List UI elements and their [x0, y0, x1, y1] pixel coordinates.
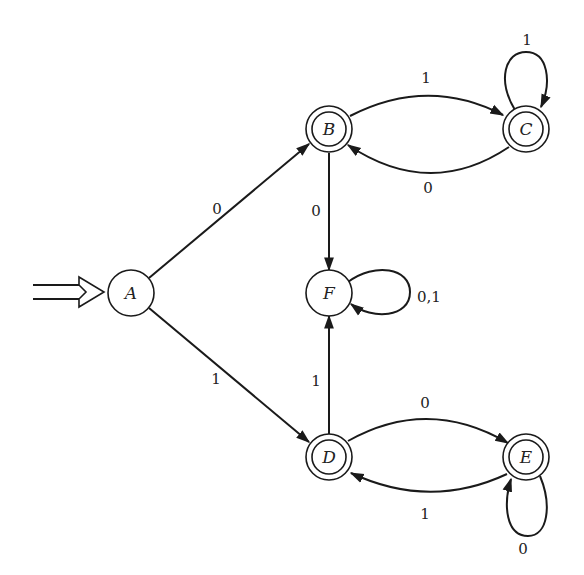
edge-label: 1: [211, 370, 221, 388]
state-F: F: [306, 270, 352, 316]
state-label: D: [321, 447, 336, 467]
state-label: C: [519, 119, 532, 139]
edge-label: 0: [518, 540, 528, 558]
dfa-diagram: 0 1 1 0 1 0 0,1 1 0 1 0 A: [0, 0, 584, 575]
state-label: E: [519, 447, 533, 467]
state-label: B: [322, 119, 336, 139]
edge-A-D: 1: [149, 308, 309, 442]
edge-D-F: 1: [311, 316, 329, 434]
state-D: D: [306, 434, 352, 480]
edge-B-F: 0: [311, 153, 329, 270]
state-C: C: [503, 106, 549, 152]
edge-label: 0: [423, 179, 433, 197]
edge-B-C: 1: [350, 69, 503, 116]
edge-E-E: 0: [507, 476, 547, 558]
edge-C-B: 0: [348, 145, 509, 197]
edge-label: 0: [311, 202, 321, 220]
edge-F-F: 0,1: [348, 270, 441, 314]
state-A: A: [108, 270, 154, 316]
edge-label: 0: [420, 394, 430, 412]
state-B: B: [306, 106, 352, 152]
edge-label: 0,1: [417, 288, 441, 306]
edge-label: 1: [421, 69, 431, 87]
edge-A-B: 0: [149, 144, 309, 278]
state-label: F: [322, 283, 336, 303]
edge-label: 1: [522, 31, 532, 49]
edge-D-E: 0: [348, 394, 508, 443]
edge-label: 0: [212, 200, 222, 218]
edge-label: 1: [311, 372, 321, 390]
edge-label: 1: [420, 505, 430, 523]
start-arrow-icon: [33, 277, 104, 307]
state-E: E: [503, 434, 549, 480]
state-label: A: [123, 283, 137, 303]
edge-C-C: 1: [505, 31, 547, 110]
edge-E-D: 1: [351, 473, 507, 523]
